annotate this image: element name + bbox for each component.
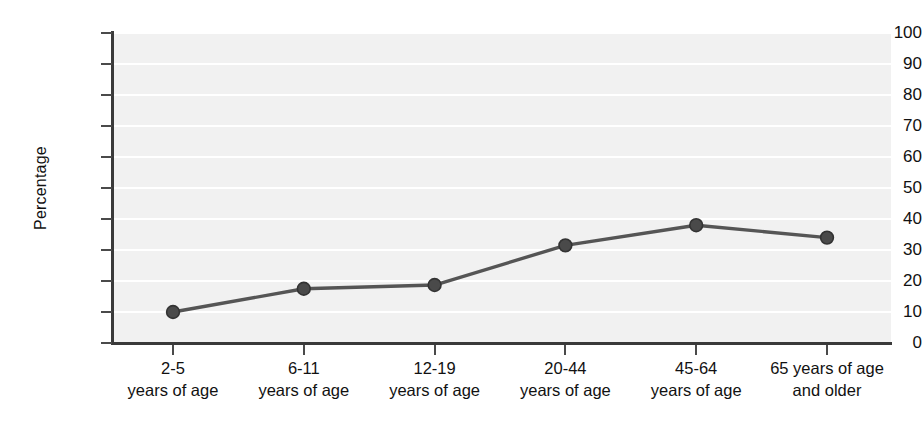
gridline (114, 249, 891, 251)
y-axis-title: Percentage (28, 33, 54, 343)
y-axis-tick-label: 80 (824, 86, 922, 103)
x-axis-tick (172, 345, 174, 355)
gridline (114, 63, 891, 65)
y-axis-tick-label: 50 (824, 179, 922, 196)
y-axis-tick-label: 20 (824, 272, 922, 289)
gridline (114, 187, 891, 189)
y-axis-tick-label: 40 (824, 210, 922, 227)
gridline (114, 218, 891, 220)
y-axis-tick-label: 70 (824, 117, 922, 134)
x-axis-tick (826, 345, 828, 355)
gridline (114, 311, 891, 313)
y-axis-tick (101, 63, 112, 65)
y-axis-tick-label: 10 (824, 303, 922, 320)
gridline (114, 280, 891, 282)
y-axis-tick (101, 94, 112, 96)
x-axis-tick (303, 345, 305, 355)
x-axis-tick (564, 345, 566, 355)
gridline (114, 125, 891, 127)
y-axis-tick (101, 32, 112, 34)
y-axis-tick (101, 280, 112, 282)
x-axis-tick-label: 65 years of ageand older (742, 358, 912, 402)
x-axis-line (111, 342, 892, 345)
y-axis-tick (101, 249, 112, 251)
gridline (114, 94, 891, 96)
y-axis-tick-label: 0 (824, 334, 922, 351)
y-axis-tick (101, 187, 112, 189)
x-axis-tick (695, 345, 697, 355)
plot-area (114, 33, 891, 343)
y-axis-tick-label: 30 (824, 241, 922, 258)
y-axis-tick-label: 60 (824, 148, 922, 165)
x-axis-tick-label-line: and older (742, 380, 912, 402)
y-axis-tick-label: 90 (824, 55, 922, 72)
x-axis-tick (434, 345, 436, 355)
x-axis-tick-label-line: 65 years of age (742, 358, 912, 380)
y-axis-tick (101, 156, 112, 158)
y-axis-tick (101, 218, 112, 220)
y-axis-tick (101, 311, 112, 313)
y-axis-tick-label: 100 (824, 24, 922, 41)
gridline (114, 156, 891, 158)
line-chart: Percentage 0102030405060708090100 2-5yea… (0, 0, 922, 430)
y-axis-tick (101, 342, 112, 344)
y-axis-tick (101, 125, 112, 127)
gridline (114, 32, 891, 34)
